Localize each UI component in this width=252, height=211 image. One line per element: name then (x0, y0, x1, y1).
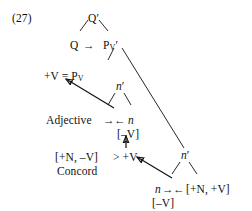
node-n-bar-right-prime: ′ (187, 149, 190, 161)
node-plus-n-plus-v: [+N, +V] (186, 184, 230, 196)
edge-nbar-mid-to-adjective (108, 93, 115, 105)
node-n-bar-mid-prime: ′ (122, 80, 125, 92)
arrow-q-to-pv-glyph: → (83, 40, 95, 52)
edge-nbar-right-to-features (189, 162, 197, 174)
edge-qbar-to-q (80, 20, 88, 31)
node-gt-plus-v: > +V (113, 152, 138, 164)
node-pv-bar-prime: ′ (115, 39, 118, 51)
node-plus-v-equals-pv-subscript: V (78, 74, 84, 83)
node-q: Q (70, 40, 78, 52)
arrow-bottom-n-right-glyph: → (162, 184, 174, 196)
node-adjective: Adjective (46, 115, 92, 127)
node-plus-v-equals-pv: +V = PV (44, 71, 84, 83)
node-concord-features: [+N, –V] (55, 152, 98, 164)
node-concord-label: Concord (57, 166, 97, 178)
node-n-right: n (155, 184, 161, 196)
arrow-bottom-n-to-plusv (137, 157, 172, 178)
arrow-adjective-right-glyph: → (103, 115, 115, 127)
node-plus-v-equals-pv-main: +V = P (44, 70, 78, 82)
arrow-n-left-glyph: ← (114, 115, 126, 127)
edge-qbar-to-pvbar (99, 20, 108, 31)
figure-container: (27) Q′ Q → PV′ +V = PV n′ Adjective → ←… (0, 0, 252, 211)
node-minus-v-right: [–V] (152, 198, 174, 210)
arrow-bottom-features-left-glyph: ← (173, 184, 185, 196)
node-n-bar-mid: n′ (116, 81, 124, 93)
tree-edges-layer (0, 0, 252, 211)
edge-nbar-right-to-n (172, 162, 180, 174)
example-number: (27) (12, 13, 32, 25)
node-n-mid: n (128, 115, 134, 127)
node-pv-bar: PV′ (103, 40, 118, 52)
edge-nbar-mid-to-n (124, 93, 131, 105)
node-minus-v-mid: [–V] (117, 129, 139, 141)
node-n-bar-right: n′ (181, 150, 189, 162)
node-q-bar: Q′ (88, 13, 99, 25)
